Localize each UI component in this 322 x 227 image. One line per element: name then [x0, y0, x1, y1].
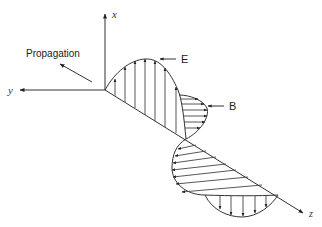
- em-wave-diagram: x y z Propagation E B: [0, 0, 322, 227]
- b-label: B: [229, 100, 236, 112]
- e-field-lower-vectors: [172, 145, 262, 192]
- z-axis-label: z: [308, 208, 313, 219]
- e-label: E: [181, 53, 188, 65]
- x-axis-label: x: [111, 8, 117, 20]
- propagation-arrow: [60, 64, 92, 82]
- e-field-upper-lobe: [105, 59, 186, 139]
- b-field-lower-lobe: [205, 195, 278, 217]
- propagation-label: Propagation: [26, 48, 80, 59]
- y-axis-label: y: [7, 84, 13, 96]
